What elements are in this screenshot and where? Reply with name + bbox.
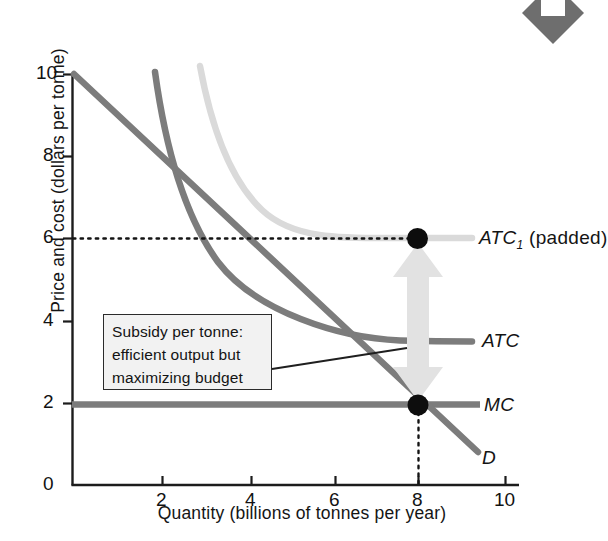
curve-label-atc1: ATC1 (padded) [479, 227, 608, 252]
y-tick-label-2: 2 [43, 391, 54, 413]
x-axis-title: Quantity (billions of tonnes per year) [72, 503, 532, 524]
y-tick-label-4: 4 [43, 309, 54, 331]
y-tick-label-10: 10 [36, 62, 57, 84]
callout-line-3: maximizing budget [112, 366, 264, 389]
curve-label-mc: MC [484, 394, 514, 416]
y-tick-label-8: 8 [43, 144, 54, 166]
y-tick-label-0: 0 [43, 473, 54, 495]
curve-label-atc1-suffix: (padded) [523, 227, 607, 248]
series-atc1-curve [200, 66, 472, 238]
x-tick-label-10: 10 [494, 489, 515, 511]
marker-atc1-at-q8 [407, 228, 428, 249]
marker-mc-at-q8 [408, 395, 429, 416]
x-tick-label-8: 8 [412, 489, 423, 511]
curve-label-atc1-text: ATC [479, 227, 517, 248]
x-tick-label-2: 2 [156, 489, 167, 511]
diamond-logo-icon [522, 0, 584, 44]
y-tick-label-6: 6 [43, 226, 54, 248]
subsidy-per-tonne-callout: Subsidy per tonne: efficient output but … [103, 314, 272, 390]
x-tick-label-6: 6 [329, 489, 340, 511]
callout-line-2: efficient output but [112, 343, 264, 366]
callout-line-1: Subsidy per tonne: [112, 320, 264, 343]
curve-label-demand: D [482, 447, 496, 469]
x-tick-label-4: 4 [245, 489, 256, 511]
curve-label-atc: ATC [482, 330, 520, 352]
